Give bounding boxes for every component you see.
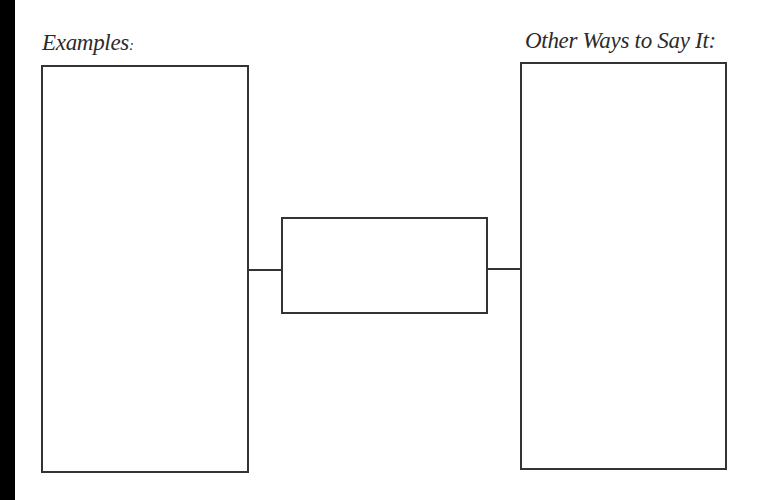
other-ways-box[interactable] bbox=[520, 62, 727, 470]
examples-label-colon: : bbox=[129, 37, 134, 53]
other-ways-label: Other Ways to Say It: bbox=[525, 28, 716, 54]
examples-label: Examples: bbox=[42, 30, 134, 56]
center-word-box[interactable] bbox=[281, 217, 488, 314]
right-connector-line bbox=[487, 268, 521, 270]
examples-label-text: Examples bbox=[42, 30, 129, 55]
scan-edge-strip bbox=[0, 0, 15, 500]
examples-box[interactable] bbox=[41, 65, 249, 473]
left-connector-line bbox=[248, 269, 282, 271]
